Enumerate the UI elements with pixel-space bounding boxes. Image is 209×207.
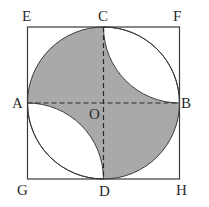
label-c: C [98, 8, 108, 24]
label-a: A [12, 95, 23, 111]
label-h: H [176, 182, 187, 198]
label-b: B [181, 95, 191, 111]
label-g: G [17, 182, 28, 198]
geometry-diagram: E C F A O B G D H [0, 0, 209, 207]
label-f: F [173, 8, 181, 24]
label-o: O [89, 106, 100, 122]
label-e: E [22, 8, 31, 24]
label-d: D [99, 183, 110, 199]
